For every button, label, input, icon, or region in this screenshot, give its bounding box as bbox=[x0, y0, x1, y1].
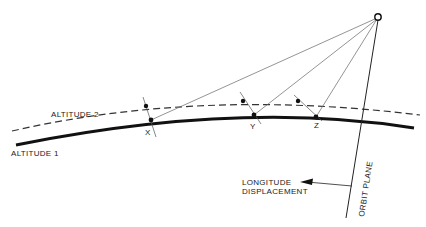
altitude-1-point-y bbox=[252, 113, 257, 118]
altitude-1-label: ALTITUDE 1 bbox=[11, 149, 59, 158]
point-x-label: X bbox=[145, 128, 151, 137]
point-y-label: Y bbox=[250, 122, 256, 131]
sight-line-z bbox=[316, 19, 377, 117]
altitude-2-point-y bbox=[241, 99, 245, 103]
longitude-displacement-label-line1: LONGITUDE bbox=[242, 178, 291, 187]
longitude-arrow-head-icon bbox=[300, 179, 313, 186]
altitude-1-point-x bbox=[149, 118, 154, 123]
altitude-2-label: ALTITUDE 2 bbox=[51, 110, 99, 119]
altitude-2-point-z bbox=[296, 99, 300, 103]
altitude-2-points bbox=[144, 99, 300, 108]
longitude-displacement-label-line2: DISPLACEMENT bbox=[242, 187, 308, 196]
altitude-1-curve bbox=[16, 117, 414, 145]
longitude-arrow-shaft bbox=[307, 182, 352, 186]
sight-line-y bbox=[254, 19, 377, 115]
vertical-ticks bbox=[143, 92, 322, 137]
altitude-2-point-x bbox=[144, 104, 148, 108]
satellite-icon bbox=[375, 14, 381, 20]
altitude-1-point-z bbox=[314, 115, 319, 120]
point-z-label: Z bbox=[314, 121, 319, 130]
tick-line-y bbox=[240, 92, 261, 124]
